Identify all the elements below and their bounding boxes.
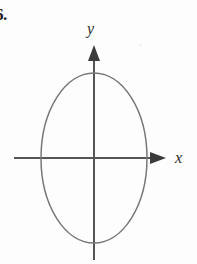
y-axis-arrowhead-icon	[88, 45, 100, 61]
x-axis-arrowhead-icon	[150, 152, 166, 164]
y-axis-label: y	[87, 21, 94, 37]
coordinate-plane-graphic	[0, 0, 197, 264]
x-axis-label: x	[175, 150, 182, 166]
scan-artifact-speck	[139, 44, 142, 47]
figure-canvas: 6. y x	[0, 0, 197, 264]
